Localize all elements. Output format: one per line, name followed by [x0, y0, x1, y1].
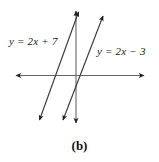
equation-label-left: y = 2x + 7	[9, 35, 58, 47]
graph-figure: y = 2x + 7 y = 2x − 3 (b)	[0, 0, 159, 162]
line-y-equals-2x-plus-7	[40, 12, 79, 120]
equation-label-right: y = 2x − 3	[97, 45, 146, 57]
line-y-equals-2x-minus-3	[63, 16, 103, 120]
figure-caption: (b)	[0, 138, 159, 154]
